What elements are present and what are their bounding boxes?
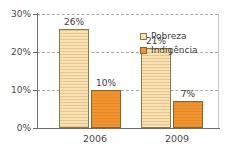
y-tick-mark-0 (33, 128, 38, 129)
y-axis-label-10: 10% (11, 86, 31, 95)
legend-label-pobreza: Pobreza (151, 32, 187, 41)
y-tick-mark-20 (33, 52, 38, 53)
x-axis-label-2009: 2009 (141, 134, 213, 144)
chart-legend: Pobreza Indigência (140, 30, 198, 58)
y-tick-mark-30 (33, 14, 38, 15)
bar-2006-indigencia[interactable] (91, 90, 121, 128)
x-axis-label-2006: 2006 (59, 134, 131, 144)
bar-2009-indigencia[interactable] (173, 101, 203, 128)
y-tick-mark-10 (33, 90, 38, 91)
pobreza-swatch-icon (140, 33, 147, 40)
data-label-2006-indigencia: 10% (91, 79, 121, 88)
legend-item-indigencia[interactable]: Indigência (140, 44, 198, 56)
y-axis-label-30: 30% (11, 10, 31, 19)
bar-2009-pobreza[interactable] (141, 48, 171, 128)
data-label-2006-pobreza: 26% (59, 18, 89, 27)
y-axis-line (37, 13, 38, 129)
y-axis-label-20: 20% (11, 48, 31, 57)
legend-label-indigencia: Indigência (151, 46, 198, 55)
bar-chart-figure: 26% 10% 21% 7% Pobreza Indigência 30% (0, 0, 235, 156)
y-axis-label-0: 0% (17, 124, 31, 133)
data-label-2009-indigencia: 7% (173, 90, 203, 99)
bar-group-2006: 26% 10% (59, 14, 131, 128)
indigencia-swatch-icon (140, 47, 147, 54)
legend-item-pobreza[interactable]: Pobreza (140, 30, 198, 42)
plot-area: 26% 10% 21% 7% Pobreza Indigência (37, 14, 219, 128)
bar-2006-pobreza[interactable] (59, 29, 89, 128)
x-axis-line (37, 128, 220, 129)
